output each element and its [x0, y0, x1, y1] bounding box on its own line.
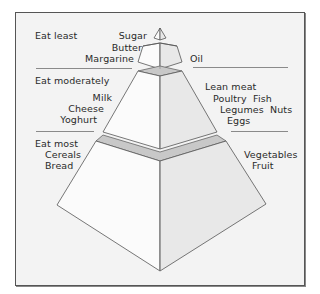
label-yoghurt: Yoghurt — [60, 114, 97, 125]
label-sugar: Sugar — [119, 30, 147, 41]
pyramid-tip — [154, 28, 166, 40]
label-bread: Bread — [45, 160, 73, 171]
label-eggs: Eggs — [227, 115, 250, 126]
divider-least-left — [36, 68, 132, 69]
label-margarine: Margarine — [85, 53, 134, 64]
label-fruit: Fruit — [252, 160, 274, 171]
label-cereals: Cereals — [45, 149, 81, 160]
divider-least-right — [193, 67, 288, 68]
label-butter: Butter — [112, 42, 142, 53]
label-legumes-nuts: Legumes Nuts — [220, 104, 292, 115]
heading-eat-most: Eat most — [35, 138, 78, 149]
label-cheese: Cheese — [68, 103, 104, 114]
heading-eat-least: Eat least — [35, 30, 77, 41]
pyramid-bottom-tier — [57, 135, 266, 271]
label-vegetables: Vegetables — [244, 149, 298, 160]
label-oil: Oil — [190, 53, 203, 64]
label-poultry-fish: Poultry Fish — [213, 93, 272, 104]
divider-moderate-right — [231, 131, 288, 132]
heading-eat-moderately: Eat moderately — [35, 75, 109, 86]
divider-moderate-left — [36, 131, 94, 132]
label-milk: Milk — [93, 92, 112, 103]
label-lean-meat: Lean meat — [205, 81, 256, 92]
